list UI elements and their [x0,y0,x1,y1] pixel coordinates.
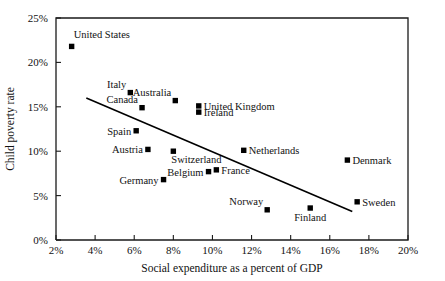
x-tick-label: 20% [398,244,418,256]
x-tick-label: 4% [88,244,103,256]
data-point[interactable]: Sweden [354,197,396,208]
data-point-marker[interactable] [69,44,74,49]
data-point-label: Italy [107,79,127,90]
data-point-label: Spain [107,126,132,137]
data-point-label: Australia [133,87,172,98]
data-point[interactable]: Switzerland [171,149,223,166]
data-point[interactable]: Austria [112,144,151,155]
data-point[interactable]: Norway [229,196,270,213]
data-point-marker[interactable] [173,98,178,103]
x-tick-label: 12% [241,244,261,256]
data-point[interactable]: Belgium [167,167,211,178]
x-tick-label: 10% [202,244,222,256]
y-tick-label: 25% [28,12,48,24]
chart-page: 2%4%6%8%10%12%14%16%18%20%0%5%10%15%20%2… [0,0,445,281]
x-tick-label: 2% [49,244,64,256]
y-axis-title: Child poverty rate [4,87,17,171]
data-point-label: Austria [112,144,143,155]
data-point-marker[interactable] [171,149,176,154]
data-point[interactable]: Netherlands [241,145,299,156]
y-tick-label: 10% [28,145,48,157]
data-point-marker[interactable] [133,128,138,133]
data-point-marker[interactable] [196,103,201,108]
data-point-marker[interactable] [354,199,359,204]
data-point-marker[interactable] [196,109,201,114]
data-point-label: Germany [119,175,159,186]
data-point-label: France [221,165,250,176]
data-point-label: Belgium [167,167,203,178]
data-point-marker[interactable] [206,169,211,174]
data-point-marker[interactable] [241,148,246,153]
data-point-marker[interactable] [308,205,313,210]
data-point[interactable]: Australia [133,87,178,104]
data-point-label: Norway [229,196,264,207]
data-point[interactable]: Spain [107,126,139,137]
data-point-label: Sweden [362,197,396,208]
y-tick-label: 5% [33,190,48,202]
data-point[interactable]: Denmark [345,155,393,166]
x-tick-label: 6% [127,244,142,256]
data-point-marker[interactable] [265,207,270,212]
x-axis-title: Social expenditure as a percent of GDP [141,262,322,275]
data-point[interactable]: Germany [119,175,166,186]
y-tick-label: 15% [28,101,48,113]
x-tick-label: 14% [281,244,301,256]
data-point-label: Finland [294,212,327,223]
data-point-marker[interactable] [139,105,144,110]
data-point[interactable]: France [214,165,251,176]
data-point-label: United States [74,29,130,40]
y-tick-label: 20% [28,56,48,68]
data-point[interactable]: Ireland [196,107,234,118]
x-tick-label: 16% [320,244,340,256]
data-point-marker[interactable] [161,177,166,182]
data-point-label: Switzerland [171,154,222,165]
data-point-label: Netherlands [249,145,300,156]
data-point-marker[interactable] [145,147,150,152]
data-point-label: Ireland [204,107,234,118]
x-tick-label: 8% [166,244,181,256]
data-point-label: Denmark [352,155,392,166]
data-point[interactable]: Finland [294,205,327,223]
scatter-plot: 2%4%6%8%10%12%14%16%18%20%0%5%10%15%20%2… [0,0,445,281]
data-point-marker[interactable] [345,157,350,162]
x-tick-label: 18% [359,244,379,256]
data-point-marker[interactable] [214,167,219,172]
y-tick-label: 0% [33,234,48,246]
data-point[interactable]: United States [69,29,130,49]
